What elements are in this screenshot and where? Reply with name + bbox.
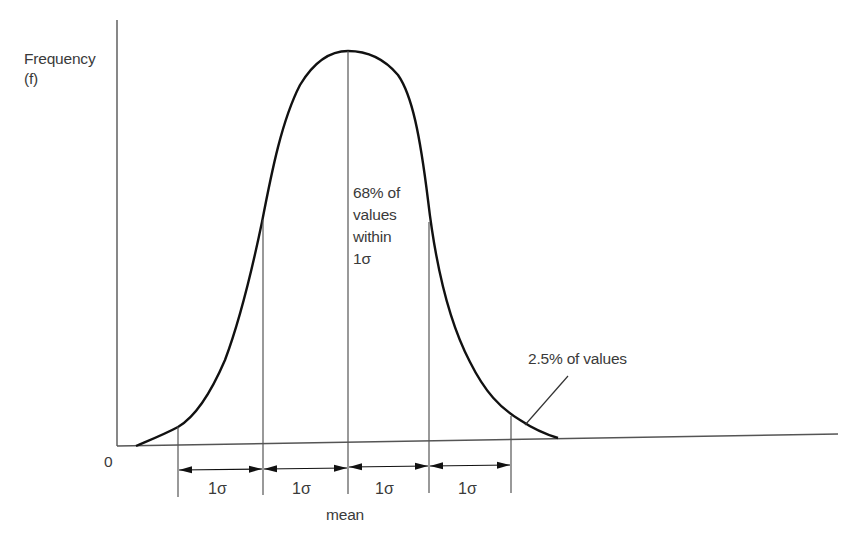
mean-label: mean [326,505,364,525]
center-annotation-line2: values [353,204,400,226]
y-axis-label: Frequency (f) [24,49,95,89]
interval-arrow-1 [179,469,262,470]
tail-leader-line [525,376,568,425]
origin-label: 0 [104,452,112,472]
interval-arrow-2 [264,468,347,469]
interval-label-3: 1σ [375,480,394,498]
center-annotation-line1: 68% of [353,182,400,204]
interval-label-1: 1σ [208,480,227,498]
interval-label-4: 1σ [458,480,477,498]
center-annotation: 68% of values within 1σ [353,182,400,270]
center-annotation-line4: 1σ [353,248,400,270]
normal-distribution-diagram [0,0,855,543]
center-annotation-line3: within [353,226,400,248]
interval-arrow-3 [349,466,428,467]
tail-annotation: 2.5% of values [528,349,627,369]
y-axis-label-line1: Frequency [24,49,95,69]
bell-curve [136,51,558,446]
interval-label-2: 1σ [292,480,311,498]
interval-arrow-4 [430,465,510,466]
x-axis [117,434,838,446]
y-axis-label-line2: (f) [24,69,95,89]
